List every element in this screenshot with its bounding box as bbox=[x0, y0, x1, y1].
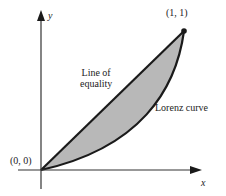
x-axis-label: x bbox=[201, 177, 205, 188]
x-axis-arrow-icon bbox=[190, 166, 202, 174]
origin-label: (0, 0) bbox=[10, 155, 32, 166]
equality-line-label: Line of equality bbox=[80, 67, 112, 89]
equality-label-line-1: Line of bbox=[80, 67, 112, 78]
equality-label-line-2: equality bbox=[80, 78, 112, 89]
lorenz-curve-label: Lorenz curve bbox=[155, 102, 208, 113]
lorenz-diagram bbox=[0, 0, 226, 196]
equality-line bbox=[41, 31, 184, 170]
end-point-dot bbox=[181, 28, 187, 34]
end-point-label: (1, 1) bbox=[166, 7, 188, 18]
y-axis-label: y bbox=[48, 10, 52, 21]
y-axis-arrow-icon bbox=[37, 10, 45, 21]
